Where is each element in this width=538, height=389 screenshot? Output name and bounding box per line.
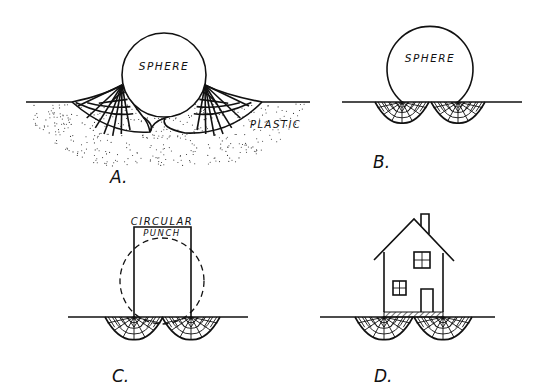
foundation-slab [384,312,443,317]
panel-b: SPHERE B. [342,26,522,172]
punch-label-line2: PUNCH [143,228,181,238]
sphere-a [122,33,206,117]
upper-window [414,252,430,268]
panel-a: SPHERE PLASTIC A. [26,33,310,187]
slip-fields-c [105,316,220,339]
house [374,214,454,317]
caption-a: A. [109,167,127,187]
punch-label-line1: CIRCULAR [131,216,194,227]
slip-fields-d [355,316,472,339]
sphere-label-b: SPHERE [405,52,455,64]
sphere-b [387,26,473,102]
diagram-canvas: SPHERE PLASTIC A. SPHERE B. CIRCULAR PUN… [0,0,538,389]
panel-c: CIRCULAR PUNCH C. [68,216,248,386]
circular-punch [134,227,191,317]
panel-d: D. [320,214,495,386]
lower-window [393,281,406,295]
caption-c: C. [112,366,129,386]
door [421,289,433,312]
sphere-label-a: SPHERE [139,60,189,72]
slip-fields-b [375,101,485,123]
caption-d: D. [374,366,393,386]
plastic-label: PLASTIC [250,119,301,130]
caption-b: B. [373,152,390,172]
